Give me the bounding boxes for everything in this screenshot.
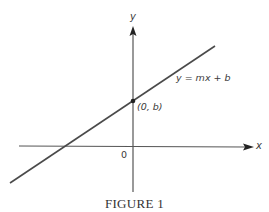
y-axis-label: y (130, 12, 136, 22)
figure-caption: FIGURE 1 (0, 196, 269, 212)
x-axis-label: x (256, 141, 262, 151)
line-graph-figure: y x 0 y = mx + b (0, b) FIGURE 1 (0, 0, 269, 212)
intercept-label: (0, b) (137, 102, 163, 112)
origin-label: 0 (121, 150, 127, 160)
y-intercept-point (131, 99, 136, 104)
equation-label: y = mx + b (176, 73, 231, 83)
linear-function-line (10, 46, 215, 183)
graph-canvas (0, 0, 269, 212)
